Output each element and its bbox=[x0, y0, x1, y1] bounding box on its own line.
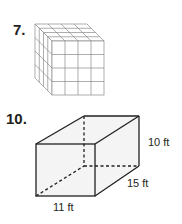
rectangular-prism-figure bbox=[36, 116, 139, 196]
depth-label: 15 ft bbox=[127, 177, 148, 189]
problem-10-number: 10. bbox=[6, 110, 27, 127]
figures-canvas bbox=[0, 0, 182, 224]
unit-cube-figure bbox=[35, 24, 104, 95]
height-label: 10 ft bbox=[148, 136, 169, 148]
width-label: 11 ft bbox=[53, 201, 74, 213]
